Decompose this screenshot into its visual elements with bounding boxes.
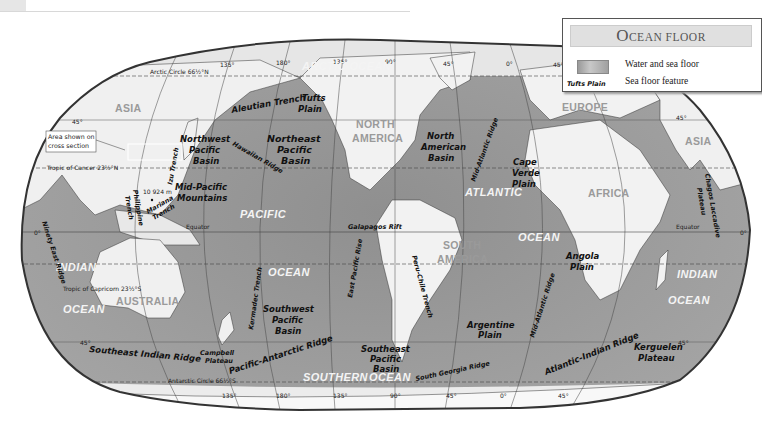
label-indian-east-2: OCEAN (668, 294, 710, 306)
feature-sw-pacific-basin-1: Southwest (263, 304, 315, 314)
top-lon-label: 180° (276, 59, 290, 66)
feature-sw-pacific-basin-3: Basin (275, 326, 301, 336)
top-lon-label: 0° (506, 60, 513, 67)
feature-tufts-plain-1: Tufts (302, 93, 326, 103)
label-africa: AFRICA (588, 187, 630, 199)
legend-feature-sample: Tufts Plain (567, 80, 606, 88)
label-australia: AUSTRALIA (116, 295, 179, 307)
label-north-america-1: NORTH (356, 118, 395, 130)
feature-north-american-basin-1: North (427, 131, 454, 141)
bottom-lon-label: 135° (333, 392, 347, 399)
feature-se-pacific-basin-1: Southeast (361, 344, 411, 354)
label-pacific-2: OCEAN (268, 266, 310, 278)
feature-angola-plain-2: Plain (570, 262, 594, 272)
deepest-point-marker (151, 199, 153, 201)
top-lon-label: 135° (220, 61, 234, 68)
feature-mid-pacific-mountains-1: Mid-Pacific (175, 182, 227, 192)
label-north-america-2: AMERICA (352, 132, 403, 144)
label-south-america-2: AMERICA (437, 253, 488, 265)
feature-nw-pacific-basin-3: Basin (193, 156, 219, 166)
feature-se-pacific-basin-3: Basin (373, 364, 399, 374)
bottom-lon-label: 135° (222, 392, 236, 399)
legend-title-rest: CEAN FLOOR (629, 31, 706, 43)
feature-north-american-basin-3: Basin (428, 153, 454, 163)
label-indian-east-1: INDIAN (677, 268, 718, 280)
equator-label-left: Equator (186, 223, 210, 231)
bottom-lon-label: 45° (558, 392, 569, 399)
feature-nw-pacific-basin-1: Northwest (180, 134, 231, 144)
tropic-cancer-label: Tropic of Cancer 23½°N (46, 164, 118, 172)
feature-ne-pacific-basin-2: Pacific (277, 144, 312, 155)
feature-angola-plain-1: Angola (565, 251, 599, 261)
water-swatch-icon (577, 60, 609, 74)
feature-cape-verde-plain-2: Verde (512, 168, 540, 178)
label-europe: EUROPE (562, 101, 608, 113)
arctic-circle-label: Arctic Circle 66½°N (150, 68, 209, 75)
label-south-america-1: SOUTH (443, 239, 481, 251)
label-asia-east: ASIA (685, 135, 711, 147)
top-lon-label: 45° (443, 60, 454, 67)
feature-campbell-plateau-1: Campbell (200, 349, 235, 357)
label-asia-west: ASIA (115, 102, 141, 114)
bottom-lon-label: 45° (446, 392, 457, 399)
feature-sw-pacific-basin-2: Pacific (272, 315, 303, 325)
bottom-lon-label: 180° (276, 392, 290, 399)
callout-line-2: cross section (48, 142, 89, 149)
feature-campbell-plateau-2: Plateau (205, 357, 233, 365)
feature-argentine-plain-2: Plain (478, 330, 502, 340)
bottom-lon-label: 0° (500, 392, 507, 399)
lat-0-right: 0° (740, 229, 747, 236)
lat-45n-right: 45° (676, 114, 687, 121)
antarctic-circle-label: Antarctic Circle 66½°S (168, 377, 236, 384)
feature-cape-verde-plain-3: Plain (512, 179, 536, 189)
feature-mid-pacific-mountains-2: Mountains (177, 193, 227, 203)
feature-cape-verde-plain-1: Cape (513, 157, 537, 167)
label-southern-1: SOUTHERN (303, 371, 369, 383)
lat-0-left: 0° (34, 229, 41, 236)
callout-line-1: Area shown on (48, 133, 95, 140)
label-atlantic-2: OCEAN (518, 231, 560, 243)
feature-tufts-plain-2: Plain (298, 104, 322, 114)
label-pacific-1: PACIFIC (240, 208, 287, 220)
feature-kerguelen-plateau-1: Kerguelen (634, 342, 683, 352)
equator-label-right: Equator (676, 223, 700, 231)
legend-water-label: Water and sea floor (625, 59, 699, 69)
mariana-depth-label: 10 924 m (143, 188, 172, 195)
legend-box: OCEAN FLOOR Water and sea floor Tufts Pl… (562, 18, 762, 92)
feature-kerguelen-plateau-2: Plateau (638, 353, 675, 363)
lat-45n-left: 45° (72, 118, 83, 125)
feature-argentine-plain-1: Argentine (466, 320, 515, 330)
tropic-capricorn-label: Tropic of Capricorn 23½°S (62, 285, 141, 293)
legend-title-initial: O (616, 26, 629, 45)
bottom-lon-label: 90° (390, 392, 401, 399)
legend-feature-label: Sea floor feature (625, 76, 688, 86)
feature-nw-pacific-basin-2: Pacific (189, 145, 220, 155)
feature-ne-pacific-basin-3: Basin (281, 155, 311, 166)
feature-galapagos-rift: Galapagos Rift (348, 223, 403, 231)
label-arctic-ocean: ARCTIC OCEAN (301, 60, 392, 72)
legend-title: OCEAN FLOOR (570, 25, 752, 47)
label-indian-west-2: OCEAN (63, 303, 105, 315)
feature-se-pacific-basin-2: Pacific (370, 354, 401, 364)
feature-ne-pacific-basin-1: Northeast (267, 133, 321, 144)
feature-north-american-basin-2: American (420, 142, 466, 152)
